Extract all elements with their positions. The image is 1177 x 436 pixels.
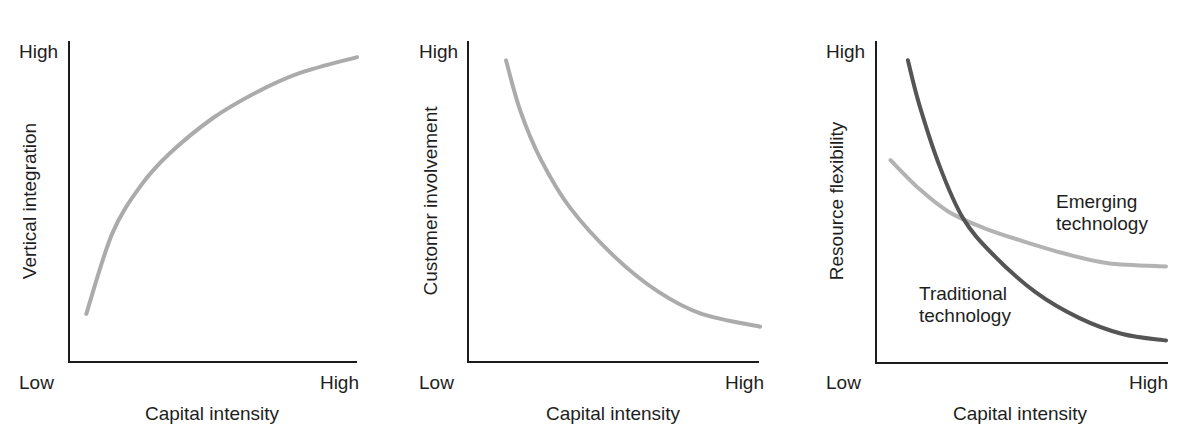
x-axis-label: Capital intensity (546, 403, 681, 424)
y-tick-high: High (19, 41, 58, 62)
x-tick-high: High (1129, 372, 1168, 393)
axes (468, 41, 759, 362)
chart-customer-involvement: High Low High Capital intensity Customer… (419, 41, 764, 424)
axes (69, 41, 357, 362)
curve-customer-involvement (506, 60, 760, 326)
x-tick-low: Low (826, 372, 861, 393)
x-tick-high: High (725, 372, 764, 393)
x-tick-low: Low (19, 372, 54, 393)
y-tick-high: High (419, 41, 458, 62)
x-tick-high: High (320, 372, 359, 393)
annotation-line: technology (919, 305, 1011, 326)
annotation-line: technology (1056, 213, 1148, 234)
y-axis-label: Vertical integration (19, 123, 40, 279)
x-tick-low: Low (419, 372, 454, 393)
y-axis-label: Resource flexibility (826, 121, 847, 280)
x-axis-label: Capital intensity (953, 403, 1088, 424)
annotation-traditional-technology: Traditional technology (919, 283, 1012, 326)
annotation-emerging-technology: Emerging technology (1056, 191, 1148, 234)
figure-three-charts: High Low High Capital intensity Vertical… (0, 0, 1177, 436)
chart-resource-flexibility: High Low High Capital intensity Resource… (826, 41, 1168, 424)
annotation-line: Traditional (919, 283, 1007, 304)
annotation-line: Emerging (1056, 191, 1137, 212)
y-axis-label: Customer involvement (420, 106, 441, 296)
curve-vertical-integration (86, 57, 357, 314)
chart-vertical-integration: High Low High Capital intensity Vertical… (19, 41, 359, 424)
y-tick-high: High (826, 41, 865, 62)
x-axis-label: Capital intensity (145, 403, 280, 424)
